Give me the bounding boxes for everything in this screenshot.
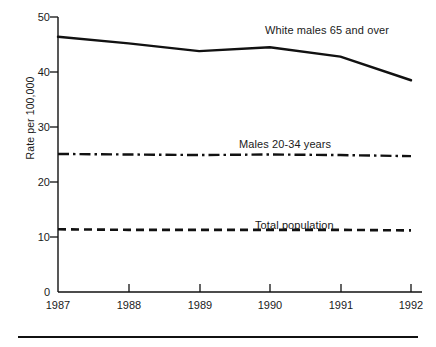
series-line-males-20-34-years [58,154,411,156]
plot-area [0,0,436,347]
footer-rule [18,336,418,338]
series-annotation-males-20-34-years: Males 20-34 years [239,138,331,150]
chart-figure: Rate per 100,000 50 40 30 20 10 0 1987 1… [0,0,436,347]
series-line-total-population [58,229,411,230]
x-axis-ticks [129,284,411,292]
series-line-white-males-65-and-over [58,37,411,80]
series-annotation-white-males-65-and-over: White males 65 and over [265,24,389,36]
series-annotation-total-population: Total population [255,219,334,231]
y-axis-ticks [50,17,58,237]
